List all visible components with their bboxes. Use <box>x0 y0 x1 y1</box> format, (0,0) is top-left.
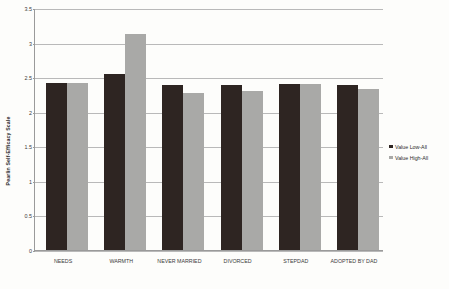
bar-low <box>279 84 300 250</box>
bar-group <box>326 9 384 250</box>
legend-item: Value Low-All <box>389 141 447 152</box>
bar-group <box>93 9 151 250</box>
bar-low <box>46 83 67 250</box>
y-axis-tick-label: 1 <box>29 179 32 185</box>
bar-high <box>358 89 379 250</box>
y-axis-tick-label: 3.5 <box>25 6 33 12</box>
x-axis-tick-label: ADOPTED BY DAD <box>331 258 378 264</box>
bar-group <box>151 9 209 250</box>
legend-swatch-icon <box>389 145 393 149</box>
x-axis-labels: NEEDSWARMTHNEVER MARRIEDDIVORCEDSTEPDADA… <box>34 258 383 270</box>
bar-group <box>35 9 93 250</box>
bar-high <box>67 83 88 250</box>
legend-label: Value High-All <box>395 155 428 161</box>
bar-chart-figure: Pearlin Self-Efficacy Scale 3.532.521.51… <box>0 0 449 289</box>
y-axis-title: Pearlin Self-Efficacy Scale <box>2 96 14 206</box>
legend-item: Value High-All <box>389 152 447 163</box>
chart-legend: Value Low-AllValue High-All <box>389 141 447 163</box>
y-axis-title-text: Pearlin Self-Efficacy Scale <box>5 117 11 186</box>
y-axis-tick-label: 0.5 <box>25 213 33 219</box>
legend-swatch-icon <box>389 156 393 160</box>
legend-label: Value Low-All <box>395 144 427 150</box>
bar-low <box>104 74 125 250</box>
bar-high <box>242 91 263 250</box>
gridline <box>35 251 383 252</box>
x-axis-tick-label: NEVER MARRIED <box>157 258 201 264</box>
bar-group <box>268 9 326 250</box>
x-axis-tick-label: STEPDAD <box>283 258 308 264</box>
y-axis-tick-label: 3 <box>29 41 32 47</box>
bar-low <box>337 85 358 250</box>
bar-group <box>210 9 268 250</box>
bar-low <box>221 85 242 250</box>
plot-area: 3.532.521.510.50 <box>34 9 383 251</box>
y-axis-tick-label: 2.5 <box>25 75 33 81</box>
x-axis-tick-label: DIVORCED <box>224 258 252 264</box>
bar-high <box>183 93 204 250</box>
bar-high <box>125 34 146 250</box>
x-axis-tick-label: NEEDS <box>54 258 72 264</box>
y-axis-tick-label: 1.5 <box>25 144 33 150</box>
y-axis-tick-label: 2 <box>29 110 32 116</box>
x-axis-tick-label: WARMTH <box>109 258 133 264</box>
bar-low <box>162 85 183 250</box>
bars-layer <box>35 9 383 250</box>
bar-high <box>300 84 321 250</box>
y-axis-tick-mark <box>33 251 35 252</box>
y-axis-tick-label: 0 <box>29 248 32 254</box>
